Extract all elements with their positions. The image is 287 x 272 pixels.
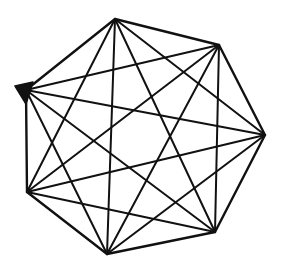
edge-A-D <box>115 19 215 232</box>
edge-B-C <box>219 45 265 135</box>
edge-F-G <box>26 90 27 192</box>
edge-C-D <box>215 135 265 232</box>
complete-graph-diagram <box>0 0 287 272</box>
edge-C-G <box>26 90 265 135</box>
edge-A-F <box>27 19 115 192</box>
edge-B-D <box>215 45 219 232</box>
edge-C-E <box>107 135 265 254</box>
graph-edges <box>26 19 265 254</box>
edge-D-G <box>26 90 215 232</box>
edge-A-C <box>115 19 265 135</box>
edge-A-E <box>107 19 115 254</box>
